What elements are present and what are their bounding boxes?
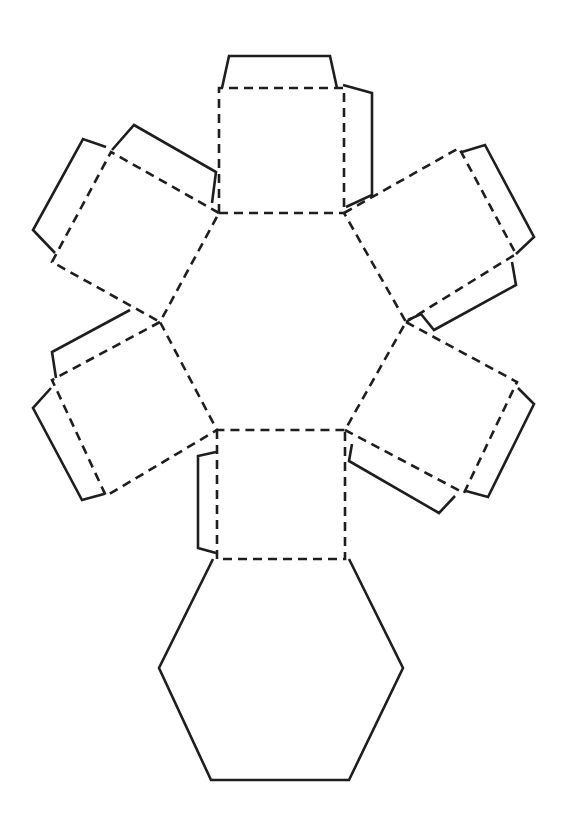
upper-left-outer-tab — [33, 139, 106, 253]
top-right-tab — [343, 85, 372, 207]
prism-net-diagram — [0, 0, 568, 826]
bottom-left-tab — [198, 452, 216, 553]
upper-left-top-tab — [112, 125, 216, 203]
lower-left-outer-tab — [33, 388, 104, 500]
lower-right-outer-tab — [466, 388, 534, 497]
lower-right-square-face — [345, 322, 534, 513]
bottom-square-face — [198, 430, 345, 559]
bottom-hexagon — [159, 559, 403, 780]
top-square-face — [219, 56, 372, 213]
upper-left-square-face — [33, 125, 219, 322]
upper-right-bottom-tab — [408, 262, 516, 330]
top-tab — [222, 56, 337, 88]
central-hexagon — [160, 213, 406, 430]
lower-left-square-face — [33, 310, 217, 500]
upper-right-outer-tab — [462, 145, 534, 254]
